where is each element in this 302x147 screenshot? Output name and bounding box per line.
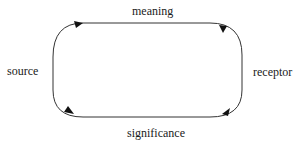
arrow-bottom-left-icon <box>64 106 74 114</box>
node-label-meaning: meaning <box>132 5 173 17</box>
cycle-loop-path <box>53 23 242 117</box>
arrow-bottom-right-icon <box>222 108 230 116</box>
node-label-source: source <box>7 65 38 77</box>
arrow-top-left-icon <box>74 21 83 28</box>
node-label-receptor: receptor <box>253 66 292 78</box>
node-label-significance: significance <box>127 127 185 139</box>
cycle-diagram: meaning source receptor significance <box>0 0 302 147</box>
arrow-top-right-icon <box>219 25 227 33</box>
